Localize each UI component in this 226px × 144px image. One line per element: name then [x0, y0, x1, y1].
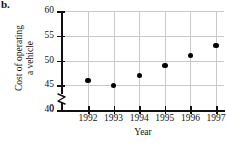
- x-axis-line: [61, 110, 225, 112]
- y-axis-tick-label: 45: [34, 80, 54, 90]
- plot-area: [62, 11, 224, 110]
- x-axis-title: Year: [60, 127, 226, 137]
- part-label: b.: [1, 0, 9, 10]
- gridline-horizontal: [62, 36, 224, 37]
- x-axis-tick-label: 1997: [201, 113, 226, 123]
- gridline-vertical: [190, 11, 191, 110]
- y-axis-tick: [57, 110, 65, 112]
- gridline-vertical: [139, 11, 140, 110]
- gridline-vertical: [88, 11, 89, 110]
- y-axis-tick: [57, 85, 65, 87]
- data-point: [111, 83, 116, 88]
- y-axis-tick-label: 55: [34, 31, 54, 41]
- gridline-horizontal: [62, 85, 224, 86]
- y-axis-break-icon: [56, 92, 70, 106]
- y-axis-tick-label: 50: [34, 56, 54, 66]
- y-axis-line: [61, 11, 63, 94]
- data-point: [85, 78, 90, 83]
- data-point: [162, 63, 167, 68]
- gridline-horizontal: [62, 11, 224, 12]
- data-point: [188, 53, 193, 58]
- y-axis-tick: [57, 61, 65, 63]
- y-axis-tick: [57, 11, 65, 13]
- gridline-vertical: [114, 11, 115, 110]
- gridline-vertical: [216, 11, 217, 110]
- data-point: [137, 73, 142, 78]
- y-axis-tick-label: 60: [34, 6, 54, 16]
- data-point: [213, 43, 218, 48]
- y-axis-zero-label: 0: [34, 104, 54, 114]
- y-axis-tick: [57, 36, 65, 38]
- y-axis-title-line-1: Cost of operating: [14, 10, 25, 106]
- gridline-vertical: [165, 11, 166, 110]
- gridline-horizontal: [62, 61, 224, 62]
